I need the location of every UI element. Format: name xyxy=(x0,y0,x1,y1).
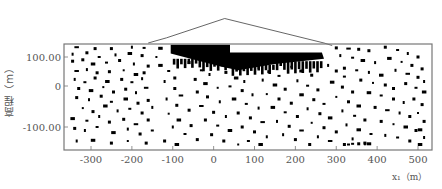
data-point xyxy=(70,117,75,120)
data-point xyxy=(98,115,100,118)
data-point xyxy=(177,119,182,122)
data-point xyxy=(131,46,133,49)
data-point xyxy=(232,98,237,101)
data-point xyxy=(74,70,79,72)
data-point xyxy=(173,87,176,90)
data-point xyxy=(327,64,329,67)
failure-cluster xyxy=(199,59,202,68)
data-point xyxy=(421,67,424,70)
data-point xyxy=(86,68,88,71)
data-point xyxy=(335,46,338,49)
data-point xyxy=(408,115,411,118)
data-point xyxy=(124,98,129,101)
failure-cluster xyxy=(184,59,187,68)
data-point xyxy=(168,113,170,115)
x-tick-label: 500 xyxy=(408,154,427,165)
data-point xyxy=(404,82,407,85)
failure-cluster xyxy=(279,61,282,66)
data-point xyxy=(384,134,386,137)
failure-cluster xyxy=(176,59,179,69)
data-point xyxy=(141,112,144,115)
data-point xyxy=(392,98,395,101)
y-tick-label: -100.00 xyxy=(23,122,61,133)
data-point xyxy=(206,95,209,98)
data-point xyxy=(351,91,354,94)
data-point xyxy=(276,120,278,123)
data-point xyxy=(307,107,309,110)
data-point xyxy=(335,96,337,98)
data-point xyxy=(166,98,168,101)
data-point xyxy=(167,70,170,72)
failure-cluster xyxy=(272,65,275,70)
data-point xyxy=(352,137,354,140)
data-point xyxy=(323,126,326,129)
failure-cluster xyxy=(309,61,312,72)
failure-cluster xyxy=(305,61,308,69)
data-point xyxy=(147,99,150,102)
data-point xyxy=(335,130,338,133)
data-point xyxy=(247,140,250,142)
data-point xyxy=(237,144,239,146)
data-point xyxy=(105,62,108,64)
data-point xyxy=(311,122,313,124)
y-tick-label: 100.00 xyxy=(26,52,61,63)
data-point xyxy=(122,118,125,121)
data-point xyxy=(188,61,191,64)
data-point xyxy=(110,47,113,50)
failure-cluster xyxy=(320,61,323,68)
data-point xyxy=(118,59,121,62)
failure-cluster xyxy=(213,59,216,67)
failure-cluster xyxy=(217,59,220,71)
data-point xyxy=(284,111,287,113)
x-tick-label: 400 xyxy=(368,154,387,165)
data-point xyxy=(278,75,281,77)
y-axis: 100.000-100.00 xyxy=(23,52,68,133)
data-point xyxy=(353,115,356,117)
data-point xyxy=(294,138,297,141)
data-point xyxy=(110,142,113,145)
failure-cluster xyxy=(228,59,231,66)
data-point xyxy=(96,71,99,74)
data-point xyxy=(151,106,153,109)
failure-cluster xyxy=(261,65,264,75)
data-point xyxy=(100,95,103,98)
data-point xyxy=(347,100,350,103)
data-point xyxy=(196,138,199,141)
data-point xyxy=(370,133,373,135)
scatter-chart: -300-200-1000100200300400500 100.000-100… xyxy=(0,0,442,189)
data-point xyxy=(110,101,113,103)
data-point xyxy=(85,120,88,122)
data-point xyxy=(296,115,299,118)
data-point xyxy=(367,142,372,145)
data-point xyxy=(343,67,346,70)
failure-cluster xyxy=(243,65,246,72)
failure-cluster xyxy=(316,61,319,72)
data-point xyxy=(284,88,287,91)
data-point xyxy=(357,128,362,131)
data-point xyxy=(387,57,392,60)
data-point xyxy=(367,91,372,94)
data-point xyxy=(415,129,418,132)
data-point xyxy=(407,52,409,55)
data-point xyxy=(278,98,281,101)
data-point xyxy=(210,133,213,136)
data-point xyxy=(385,109,390,111)
data-point xyxy=(249,116,252,119)
data-point xyxy=(108,121,111,124)
data-point xyxy=(145,142,148,145)
data-point xyxy=(98,56,101,58)
data-point xyxy=(175,143,180,146)
data-point xyxy=(158,64,163,67)
failure-cluster xyxy=(195,59,198,64)
data-point xyxy=(347,144,350,146)
data-point xyxy=(306,85,309,87)
data-point xyxy=(163,140,166,143)
data-point xyxy=(108,70,111,73)
data-point xyxy=(379,74,384,77)
data-point xyxy=(234,77,239,80)
data-point xyxy=(417,112,419,114)
data-point xyxy=(317,135,319,138)
data-point xyxy=(81,58,84,61)
data-point xyxy=(82,107,84,109)
data-point xyxy=(241,126,244,129)
